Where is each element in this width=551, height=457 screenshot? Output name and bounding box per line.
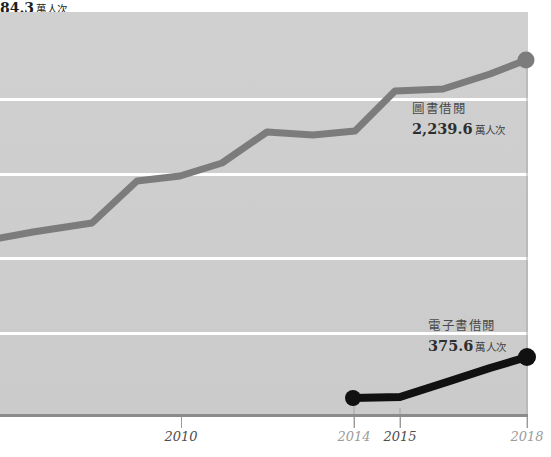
endpoint-marker-book xyxy=(518,52,535,69)
series-value-book-unit: 萬人次 xyxy=(475,124,506,136)
series-label-ebook: 電子書借閱 xyxy=(428,315,507,334)
data-point-marker-2014 xyxy=(345,390,361,406)
series-value-book-number: 2,239.6 xyxy=(412,120,473,137)
tick-mark-2015 xyxy=(400,417,401,428)
series-line-ebook xyxy=(353,357,527,398)
x-tick-label-2018: 2018 xyxy=(510,429,543,444)
tick-mark-2018 xyxy=(527,417,528,428)
tick-mark-2014 xyxy=(354,417,355,428)
x-tick-label-2010: 2010 xyxy=(164,429,197,444)
series-value-ebook-number: 375.6 xyxy=(428,337,473,354)
x-tick-label-2014: 2014 xyxy=(337,429,370,444)
annotation-ebook-series: 電子書借閱 375.6萬人次 xyxy=(428,315,507,354)
line-chart: 2010 2014 2015 2018 圖書借閱 2,239.6萬人次 電子書借… xyxy=(0,0,551,457)
x-tick-label-2015: 2015 xyxy=(383,429,416,444)
series-line-book xyxy=(0,60,526,238)
series-value-ebook: 375.6萬人次 xyxy=(428,337,507,354)
endpoint-marker-ebook xyxy=(518,348,536,366)
x-axis-line xyxy=(0,414,528,417)
series-label-book: 圖書借閱 xyxy=(412,98,506,117)
series-value-ebook-unit: 萬人次 xyxy=(475,341,506,353)
tick-mark-2010 xyxy=(181,417,182,428)
annotation-book-series: 圖書借閱 2,239.6萬人次 xyxy=(412,98,506,137)
series-lines xyxy=(0,0,551,457)
series-value-book: 2,239.6萬人次 xyxy=(412,120,506,137)
